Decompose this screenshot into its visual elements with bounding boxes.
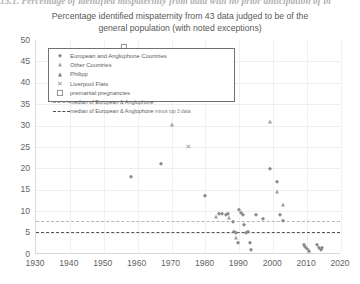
chart-legend: European and Anglophone CountriesOther C… (48, 48, 235, 102)
median-dark-line-icon (53, 107, 70, 116)
triangle-marker-icon (53, 61, 70, 70)
x-tick-label: 2020 (320, 258, 360, 268)
y-tick-label: 10 (4, 206, 30, 216)
legend-label: median of European & Anglophone (70, 98, 154, 107)
median-light-line-icon (53, 98, 70, 107)
y-tick-label: 20 (4, 163, 30, 173)
y-tick-label: 45 (4, 56, 30, 66)
y-tick-label: 15 (4, 184, 30, 194)
legend-label: Liverpool Flats (70, 80, 108, 89)
data-point (307, 249, 311, 253)
y-tick-label: 25 (4, 142, 30, 152)
median-line (36, 221, 340, 222)
data-point (240, 213, 245, 218)
y-tick-label: 40 (4, 77, 30, 87)
gridline-vertical (341, 40, 342, 253)
chart-figure: Percentage identified mispaternity from … (0, 9, 360, 284)
data-point (242, 222, 247, 227)
legend-item: median of European & Anglophone minus to… (53, 107, 230, 116)
y-tick-label: 0 (4, 249, 30, 259)
y-tick-label: 50 (4, 35, 30, 45)
gridline-horizontal (36, 211, 340, 212)
chart-title-line-2: general population (with noted exception… (30, 23, 330, 35)
gridline-horizontal (36, 168, 340, 169)
gridline-horizontal (36, 126, 340, 127)
chart-title: Percentage identified mispaternity from … (30, 11, 330, 34)
x-marker-icon: ✕ (53, 80, 70, 89)
legend-label: premarital pregnancies (70, 89, 130, 98)
data-point (275, 189, 279, 193)
legend-label-suffix: minus top 3 data (154, 109, 191, 114)
legend-label: Philipp (70, 70, 88, 79)
data-point (230, 219, 235, 224)
legend-item: Philipp (53, 70, 230, 79)
diamond-marker-icon (53, 52, 70, 61)
data-point (278, 213, 283, 218)
y-tick-label: 35 (4, 99, 30, 109)
data-point (281, 203, 285, 207)
legend-label: European and Anglophone Countries (70, 52, 167, 61)
chart-title-line-1: Percentage identified mispaternity from … (30, 11, 330, 23)
legend-item: median of European & Anglophone (53, 98, 230, 107)
data-point (249, 247, 254, 252)
data-point (214, 215, 218, 219)
legend-item: Other Countries (53, 61, 230, 70)
gridline-horizontal (36, 190, 340, 191)
data-point (247, 240, 252, 245)
legend-label: median of European & Anglophone minus to… (70, 107, 190, 117)
y-tick-label: 30 (4, 120, 30, 130)
data-point (128, 175, 133, 180)
data-point (159, 162, 164, 167)
square-open-marker-icon (53, 89, 70, 98)
data-point: ✕ (186, 144, 192, 150)
y-tick-label: 5 (4, 227, 30, 237)
triangle-dark-marker-icon (53, 70, 70, 79)
data-point (274, 180, 279, 185)
legend-item: European and Anglophone Countries (53, 52, 230, 61)
data-point (234, 235, 238, 239)
legend-item: ✕Liverpool Flats (53, 80, 230, 89)
data-point (268, 120, 272, 124)
data-point (170, 122, 174, 126)
data-point (234, 230, 239, 235)
data-point (227, 216, 231, 220)
median-line (36, 232, 340, 233)
legend-label: Other Countries (70, 61, 112, 70)
data-point (254, 212, 259, 217)
clipped-running-header: 13.1. Percentage of identified mispatern… (0, 0, 360, 9)
legend-item: premarital pregnancies (53, 89, 230, 98)
